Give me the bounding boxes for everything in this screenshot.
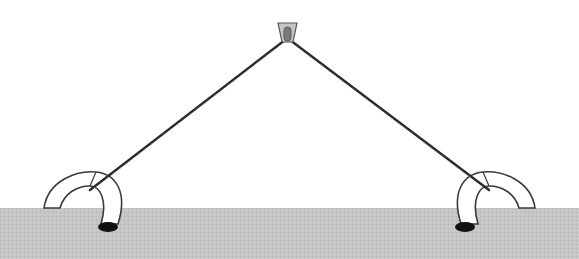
right-anchor-stake [455, 222, 475, 232]
rope-anchor-diagram [0, 0, 579, 259]
ground [0, 208, 579, 259]
apex-clip [278, 23, 297, 42]
left-anchor-stake [98, 222, 118, 232]
